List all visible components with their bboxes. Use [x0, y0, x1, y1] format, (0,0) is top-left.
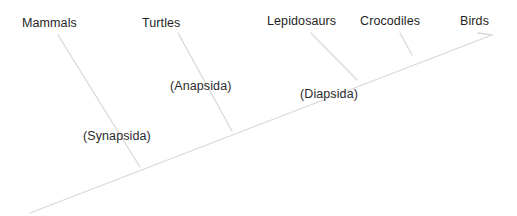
clade-label-synapsida: (Synapsida) [83, 130, 151, 143]
backbone-line [30, 35, 492, 213]
branch-mammals [58, 35, 140, 167]
taxon-label-crocodiles: Crocodiles [360, 15, 420, 28]
branch-crocodiles [400, 33, 412, 55]
taxon-label-birds: Birds [460, 15, 489, 28]
taxon-label-mammals: Mammals [22, 17, 77, 30]
cladogram-tree-lines [0, 0, 517, 216]
cladogram-figure: Mammals Turtles Lepidosaurs Crocodiles B… [0, 0, 517, 216]
branch-birds [478, 33, 492, 35]
taxon-label-lepidosaurs: Lepidosaurs [267, 15, 336, 28]
branch-lepidosaurs [311, 33, 357, 80]
taxon-label-turtles: Turtles [142, 17, 180, 30]
clade-label-diapsida: (Diapsida) [300, 88, 358, 101]
clade-label-anapsida: (Anapsida) [170, 80, 231, 93]
